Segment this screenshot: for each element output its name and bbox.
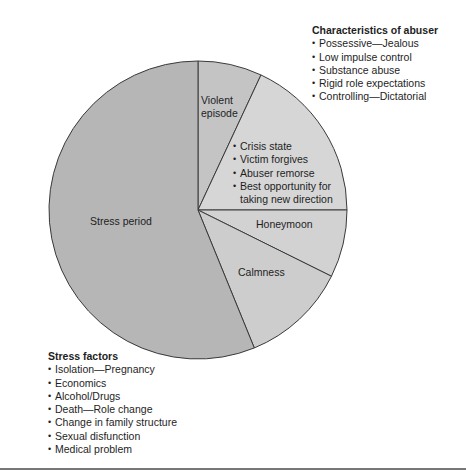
slice-label-honeymoon: Honeymoon	[256, 218, 313, 231]
violent-line1: Violent	[201, 94, 238, 107]
abuser-characteristics-legend: Characteristics of abuser Possessive—Jea…	[312, 24, 438, 104]
crisis-item: Abuser remorse	[233, 167, 333, 180]
stress-factors-legend: Stress factors Isolation—PregnancyEconom…	[48, 350, 177, 456]
bottom-divider	[0, 468, 466, 470]
slice-label-violent-episode: Violent episode	[201, 94, 238, 121]
crisis-item: Crisis state	[233, 140, 333, 153]
abuser-heading: Characteristics of abuser	[312, 24, 438, 37]
abuser-item: Controlling—Dictatorial	[312, 90, 438, 103]
abuser-item: Substance abuse	[312, 64, 438, 77]
stress-item: Alcohol/Drugs	[48, 390, 177, 403]
abuser-list: Possessive—JealousLow impulse controlSub…	[312, 37, 438, 103]
stress-item: Economics	[48, 377, 177, 390]
abuser-item: Low impulse control	[312, 51, 438, 64]
abuser-item: Possessive—Jealous	[312, 37, 438, 50]
slice-label-crisis: Crisis state Victim forgives Abuser remo…	[233, 140, 333, 206]
abuser-item: Rigid role expectations	[312, 77, 438, 90]
slice-label-stress-period: Stress period	[90, 215, 152, 228]
stress-item: Sexual disfunction	[48, 430, 177, 443]
stress-item: Isolation—Pregnancy	[48, 363, 177, 376]
stress-item: Medical problem	[48, 443, 177, 456]
violent-line2: episode	[201, 107, 238, 120]
crisis-item: Best opportunity fortaking new direction	[233, 180, 333, 207]
stress-item: Change in family structure	[48, 416, 177, 429]
stress-heading: Stress factors	[48, 350, 177, 363]
stress-item: Death—Role change	[48, 403, 177, 416]
stress-list: Isolation—PregnancyEconomicsAlcohol/Drug…	[48, 363, 177, 456]
slice-label-calmness: Calmness	[238, 266, 285, 279]
crisis-item: Victim forgives	[233, 153, 333, 166]
